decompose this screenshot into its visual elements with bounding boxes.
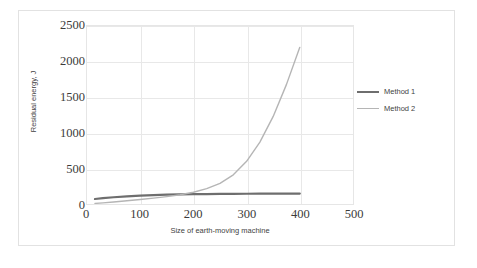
y-tick-label: 2000 (39, 55, 85, 68)
legend-line-swatch (357, 91, 379, 93)
x-tick-label: 100 (118, 208, 162, 221)
y-axis-tick-labels: 05001000150020002500 (39, 25, 85, 205)
y-axis-title: Residual energy, J (29, 42, 38, 162)
x-axis-title: Size of earth-moving machine (86, 226, 354, 235)
x-tick-label: 300 (225, 208, 269, 221)
x-tick-label: 200 (171, 208, 215, 221)
x-tick-label: 500 (332, 208, 376, 221)
y-tick-label: 1500 (39, 91, 85, 104)
x-tick-label: 400 (278, 208, 322, 221)
x-tick-label: 0 (64, 208, 108, 221)
legend-entry[interactable]: Method 1 (357, 83, 453, 100)
x-axis-tick-labels: 0100200300400500 (86, 208, 354, 224)
y-tick-label: 1000 (39, 127, 85, 140)
plot-area (86, 25, 354, 205)
legend-label: Method 2 (384, 104, 415, 113)
chart-legend: Method 1Method 2 (357, 83, 453, 117)
chart-frame: Residual energy, J 05001000150020002500 … (18, 10, 455, 246)
y-tick-label: 500 (39, 163, 85, 176)
legend-label: Method 1 (384, 87, 415, 96)
series-lines (87, 26, 353, 204)
series-line (95, 194, 300, 199)
legend-entry[interactable]: Method 2 (357, 100, 453, 117)
series-line (95, 47, 300, 203)
legend-line-swatch (357, 108, 379, 109)
y-tick-label: 2500 (39, 19, 85, 32)
